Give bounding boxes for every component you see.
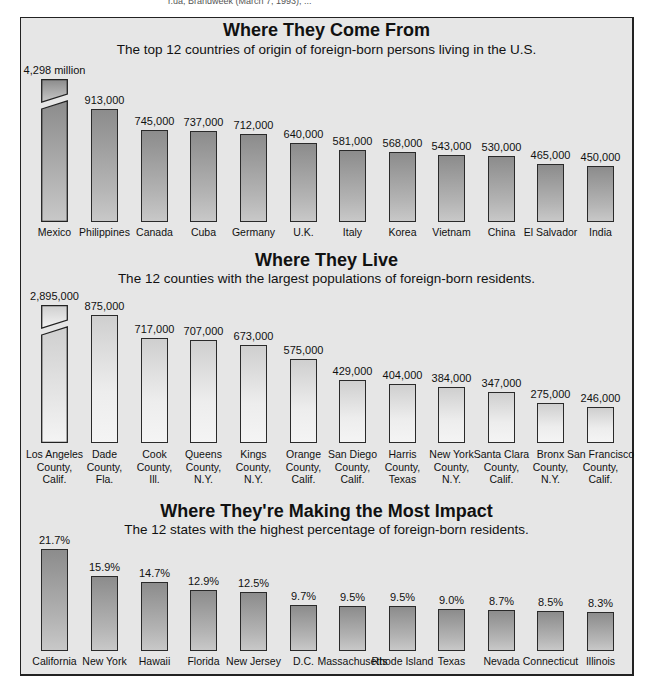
bar [190,340,217,443]
panel-1-title: Where They Come From [0,20,653,41]
bar [190,590,217,651]
bar [438,155,465,222]
bar [587,407,614,443]
bar [537,611,564,651]
bar [339,380,366,443]
panel-1-subtitle: The top 12 countries of origin of foreig… [0,42,653,57]
bar [141,130,168,222]
bar [290,605,317,651]
bar [587,166,614,222]
panel-2-title: Where They Live [0,250,653,271]
bar [290,143,317,222]
bar [190,131,217,222]
bar [339,606,366,651]
bar [438,387,465,443]
value-label: 8.3% [561,597,641,609]
panel-3-title: Where They're Making the Most Impact [0,501,653,522]
bar [537,164,564,222]
bar [389,606,416,651]
bar [339,150,366,222]
panel-2-subtitle: The 12 counties with the largest populat… [0,271,653,286]
value-label: 21.7% [15,534,95,546]
value-label: 673,000 [214,330,294,342]
value-label: 450,000 [561,151,641,163]
bar [91,576,118,651]
value-label: 4,298 million [15,64,95,76]
bar [141,338,168,443]
bar [141,582,168,651]
category-label: India [561,226,641,239]
bar [537,403,564,443]
source-credit-line: r.ua, Brandweek (March 7, 1993), ... [168,0,312,6]
bar [438,609,465,651]
value-label: 875,000 [65,300,145,312]
value-label: 246,000 [561,392,641,404]
bar [488,156,515,222]
panel-3-subtitle: The 12 states with the highest percentag… [0,522,653,537]
bar [587,612,614,651]
category-label: San FranciscoCounty,Calif. [561,448,641,486]
bar [240,134,267,222]
bar [389,384,416,443]
value-label: 575,000 [264,344,344,356]
category-label: Illinois [561,655,641,668]
bar [389,152,416,222]
value-label: 913,000 [65,94,145,106]
value-label: 12.5% [214,577,294,589]
bar [488,610,515,651]
broken-bar-2 [41,305,68,443]
bar [240,345,267,443]
